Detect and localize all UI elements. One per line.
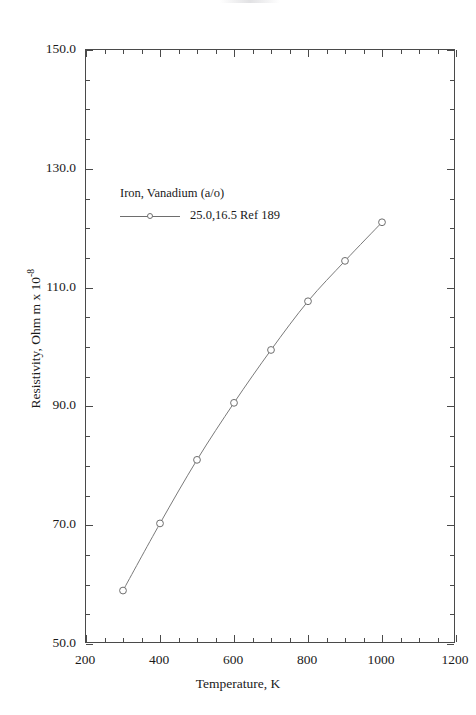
axis-tick (86, 644, 93, 645)
axis-tick (345, 638, 346, 642)
axis-tick (160, 50, 161, 57)
axis-tick (327, 638, 328, 642)
axis-tick (86, 169, 93, 170)
axis-tick (450, 139, 454, 140)
data-point-marker (268, 347, 275, 354)
axis-tick (253, 638, 254, 642)
data-point-marker (120, 587, 127, 594)
axis-tick (450, 258, 454, 259)
axis-tick (450, 228, 454, 229)
axis-tick (253, 50, 254, 54)
axis-tick (216, 638, 217, 642)
axis-tick (419, 50, 420, 54)
axis-tick (160, 635, 161, 642)
axis-tick (401, 50, 402, 54)
legend-marker-open-circle-icon (120, 210, 180, 222)
axis-tick (456, 50, 457, 57)
y-tick-label: 110.0 (14, 280, 76, 294)
axis-tick (447, 644, 454, 645)
axis-tick (271, 638, 272, 642)
axis-tick (234, 635, 235, 642)
axis-tick (179, 50, 180, 54)
axis-tick (382, 635, 383, 642)
series-line-0 (123, 222, 382, 590)
axis-tick (308, 50, 309, 57)
plot-area (86, 50, 454, 642)
y-axis-title-text: Resistivity, Ohm m x 10 (28, 277, 43, 409)
axis-tick (450, 466, 454, 467)
axis-tick (419, 638, 420, 642)
y-tick-label: 90.0 (14, 398, 76, 412)
axis-tick (450, 614, 454, 615)
axis-tick (447, 525, 454, 526)
axis-tick (86, 139, 90, 140)
y-axis-title-exponent: -8 (26, 269, 36, 277)
data-point-marker (231, 399, 238, 406)
axis-tick (86, 109, 90, 110)
axis-tick (179, 638, 180, 642)
legend-entry-label: 25.0,16.5 Ref 189 (190, 208, 280, 223)
axis-tick (86, 555, 90, 556)
axis-tick (86, 347, 90, 348)
axis-tick (290, 50, 291, 54)
axis-tick (308, 635, 309, 642)
axis-tick (327, 50, 328, 54)
axis-tick (86, 406, 93, 407)
axis-tick (438, 638, 439, 642)
y-tick-label: 50.0 (14, 636, 76, 650)
axis-tick (197, 50, 198, 54)
x-tick-label: 800 (277, 653, 337, 667)
axis-tick (86, 228, 90, 229)
axis-tick (86, 614, 90, 615)
axis-tick (447, 288, 454, 289)
data-point-marker (379, 219, 386, 226)
axis-tick (123, 50, 124, 54)
axis-tick (105, 50, 106, 54)
legend-entry-0: 25.0,16.5 Ref 189 (120, 208, 280, 223)
y-axis-title: Resistivity, Ohm m x 10-8 (26, 39, 44, 639)
data-point-marker (157, 520, 164, 527)
axis-tick (86, 466, 90, 467)
x-tick-label: 200 (55, 653, 115, 667)
axis-tick (86, 80, 90, 81)
axis-tick (450, 199, 454, 200)
axis-tick (123, 638, 124, 642)
axis-tick (86, 436, 90, 437)
axis-tick (271, 50, 272, 54)
axis-tick (450, 585, 454, 586)
axis-tick (447, 406, 454, 407)
axis-tick (86, 377, 90, 378)
axis-tick (450, 347, 454, 348)
axis-tick (450, 109, 454, 110)
axis-tick (364, 50, 365, 54)
axis-tick (197, 638, 198, 642)
axis-tick (86, 635, 87, 642)
axis-tick (401, 638, 402, 642)
axis-tick (86, 199, 90, 200)
axis-tick (456, 635, 457, 642)
x-tick-label: 600 (203, 653, 263, 667)
axis-tick (450, 496, 454, 497)
data-point-marker (194, 456, 201, 463)
axis-tick (142, 638, 143, 642)
axis-tick (234, 50, 235, 57)
x-tick-label: 1000 (351, 653, 411, 667)
axis-tick (447, 169, 454, 170)
axis-tick (447, 50, 454, 51)
data-series-layer (86, 50, 456, 644)
axis-tick (450, 377, 454, 378)
x-tick-label: 400 (129, 653, 189, 667)
x-axis-title: Temperature, K (0, 676, 476, 692)
axis-tick (382, 50, 383, 57)
y-tick-label: 70.0 (14, 517, 76, 531)
axis-tick (86, 496, 90, 497)
axis-tick (450, 317, 454, 318)
y-tick-label: 150.0 (14, 42, 76, 56)
legend-title: Iron, Vanadium (a/o) (120, 186, 280, 201)
axis-tick (86, 317, 90, 318)
axis-tick (290, 638, 291, 642)
axis-tick (438, 50, 439, 54)
axis-tick (86, 50, 93, 51)
axis-tick (105, 638, 106, 642)
axis-tick (86, 258, 90, 259)
